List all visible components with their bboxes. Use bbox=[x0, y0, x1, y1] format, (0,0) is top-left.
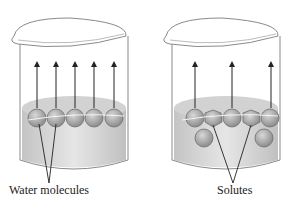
water-molecule bbox=[261, 109, 279, 127]
water-molecule bbox=[223, 109, 241, 127]
submerged-molecule bbox=[255, 129, 273, 147]
submerged-molecule bbox=[195, 129, 213, 147]
evaporation-diagram bbox=[0, 0, 300, 208]
left-beaker bbox=[12, 18, 128, 183]
water-molecules-label: Water molecules bbox=[9, 183, 89, 198]
solutes-label: Solutes bbox=[217, 183, 252, 198]
right-beaker bbox=[164, 18, 280, 183]
